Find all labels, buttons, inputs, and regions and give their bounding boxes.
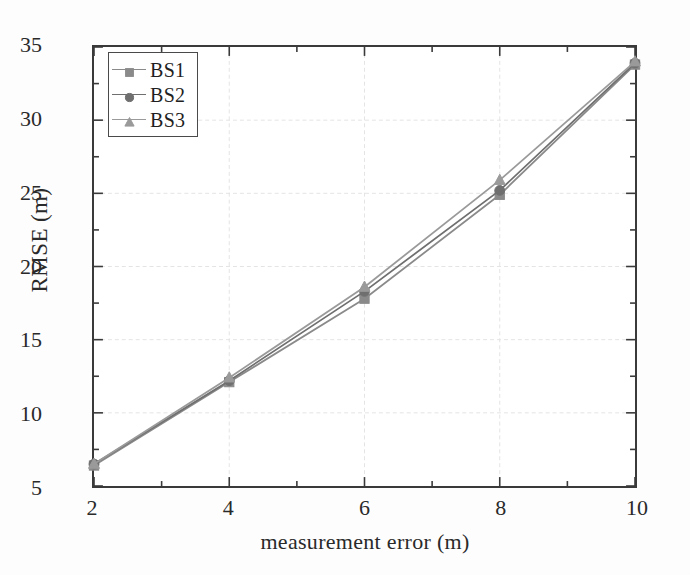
x-tick-label: 8	[478, 495, 524, 521]
y-axis-title: RMSE (m)	[27, 140, 53, 340]
y-tick-label: 5	[0, 475, 42, 501]
y-tick-label: 30	[0, 106, 42, 132]
legend-swatch-square-icon	[112, 61, 146, 79]
y-tick-label: 25	[0, 180, 42, 206]
x-tick-label: 2	[69, 495, 115, 521]
legend-item-bs2: BS2	[109, 82, 197, 107]
x-tick-label: 4	[205, 495, 251, 521]
y-tick-label: 15	[0, 327, 42, 353]
y-tick-label: 35	[0, 32, 42, 58]
x-axis-title: measurement error (m)	[92, 529, 638, 555]
x-tick-label: 6	[342, 495, 388, 521]
x-tick-label: 10	[614, 495, 660, 521]
legend-item-bs1: BS1	[109, 57, 197, 82]
legend-swatch-triangle-icon	[112, 111, 146, 129]
legend-swatch-circle-icon	[112, 86, 146, 104]
legend-item-bs3: BS3	[109, 107, 197, 132]
y-tick-label: 20	[0, 254, 42, 280]
legend-box: BS1BS2BS3	[108, 52, 198, 137]
legend-label: BS1	[146, 60, 185, 80]
y-tick-label: 10	[0, 401, 42, 427]
data-point-bs3-6	[359, 281, 370, 291]
legend-label: BS3	[146, 110, 185, 130]
chart-figure: RMSE (m) measurement error (m) 510152025…	[0, 0, 690, 575]
legend-label: BS2	[146, 85, 185, 105]
data-point-bs2-8	[495, 186, 505, 196]
